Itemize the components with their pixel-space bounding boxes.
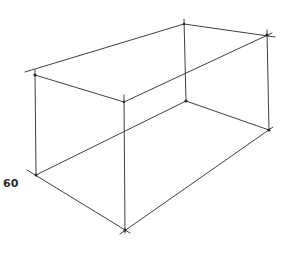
vertex-bottom-back: [184, 99, 187, 102]
edge-top-left-to-top-back: [25, 24, 184, 72]
edge-back-vertical: [184, 19, 186, 101]
edge-bottom-front-to-bottom-right: [120, 127, 273, 234]
vertex-top-back: [183, 23, 186, 26]
vertex-top-left: [33, 73, 36, 76]
vertex-bottom-right: [267, 128, 270, 131]
vertex-top-right: [265, 33, 268, 36]
edge-left-vertical: [35, 70, 36, 175]
edge-bottom-back-to-bottom-right: [186, 101, 269, 130]
edge-top-back-to-top-right: [184, 24, 275, 37]
edge-right-vertical: [267, 30, 269, 130]
edge-bottom-left-to-bottom-back: [36, 101, 186, 175]
edge-front-vertical: [124, 95, 125, 233]
edge-top-left-to-top-front: [35, 75, 124, 102]
vertex-top-front: [123, 101, 125, 103]
vertex-bottom-left: [35, 174, 38, 177]
wireframe-box: [0, 0, 285, 261]
edge-bottom-left-to-bottom-front: [27, 170, 130, 233]
dimension-label: 60: [3, 177, 18, 190]
diagram-canvas: 60: [0, 0, 285, 261]
vertex-bottom-front: [124, 229, 127, 232]
edge-top-front-to-top-right: [124, 33, 272, 102]
